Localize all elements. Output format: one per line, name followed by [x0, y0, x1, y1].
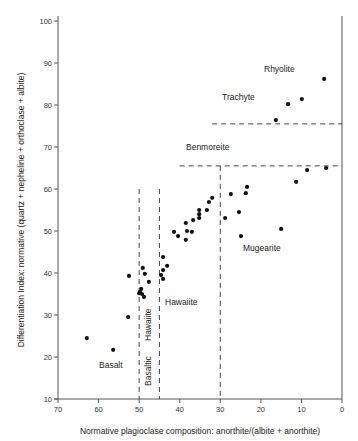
data-point — [205, 208, 209, 212]
data-point — [184, 238, 188, 242]
data-point — [165, 264, 169, 268]
y-tick-label: 40 — [44, 269, 52, 278]
data-point — [161, 277, 165, 281]
y-tick-label: 20 — [44, 353, 52, 362]
data-point — [197, 212, 201, 216]
data-point — [210, 196, 214, 200]
x-tick-label: 30 — [216, 405, 224, 414]
data-point — [191, 218, 195, 222]
region-label-mugearite: Mugearite — [243, 243, 281, 253]
field-boundaries — [139, 124, 342, 399]
data-point — [127, 274, 131, 278]
region-label-basaltic: Basaltic — [143, 355, 153, 386]
region-label-benmoreite: Benmoreite — [186, 142, 230, 152]
data-point — [274, 118, 278, 122]
y-tick-label: 70 — [44, 143, 52, 152]
region-label-basalt: Basalt — [99, 360, 123, 370]
data-point — [141, 266, 145, 270]
data-point — [143, 272, 147, 276]
y-axis-title: Differentiation Index: normative (quartz… — [16, 73, 26, 348]
data-point — [207, 200, 211, 204]
y-tick-label: 50 — [44, 227, 52, 236]
data-point — [147, 280, 151, 284]
axes: 102030405060708090100706050403020100 — [39, 16, 344, 414]
data-point — [126, 315, 130, 319]
data-point — [239, 234, 243, 238]
data-point — [184, 221, 188, 225]
data-point — [324, 166, 328, 170]
data-point — [197, 216, 201, 220]
x-axis-title: Normative plagioclase composition: anort… — [80, 426, 320, 436]
region-label-rhyolite: Rhyolite — [264, 64, 295, 74]
x-tick-label: 0 — [340, 405, 344, 414]
region-label-hawaiite: Hawaiite — [165, 297, 198, 307]
data-point — [305, 168, 309, 172]
x-tick-label: 50 — [135, 405, 143, 414]
y-tick-label: 90 — [44, 59, 52, 68]
data-point — [185, 229, 189, 233]
data-point — [245, 185, 249, 189]
data-point — [172, 230, 176, 234]
data-point — [159, 273, 163, 277]
region-label-hawaiite-vertical: Hawaiite — [143, 308, 153, 341]
region-label-trachyte: Trachyte — [222, 92, 255, 102]
data-point — [237, 210, 241, 214]
data-point — [229, 192, 233, 196]
data-point — [294, 180, 298, 184]
x-tick-label: 10 — [297, 405, 305, 414]
y-tick-label: 60 — [44, 185, 52, 194]
data-point — [190, 230, 194, 234]
x-tick-label: 60 — [94, 405, 102, 414]
data-point — [286, 102, 290, 106]
data-point — [111, 348, 115, 352]
data-point — [161, 255, 165, 259]
data-point — [142, 295, 146, 299]
y-tick-label: 30 — [44, 311, 52, 320]
data-point — [223, 216, 227, 220]
y-tick-label: 10 — [44, 395, 52, 404]
data-points — [85, 77, 329, 352]
y-tick-label: 100 — [39, 17, 52, 26]
data-point — [322, 77, 326, 81]
data-point — [244, 191, 248, 195]
x-tick-label: 70 — [54, 405, 62, 414]
data-point — [161, 268, 165, 272]
x-tick-label: 20 — [257, 405, 265, 414]
scatter-chart: 102030405060708090100706050403020100 Rhy… — [0, 0, 358, 441]
data-point — [300, 97, 304, 101]
y-tick-label: 80 — [44, 101, 52, 110]
data-point — [176, 234, 180, 238]
data-point — [279, 227, 283, 231]
x-tick-label: 40 — [176, 405, 184, 414]
data-point — [197, 208, 201, 212]
data-point — [85, 336, 89, 340]
